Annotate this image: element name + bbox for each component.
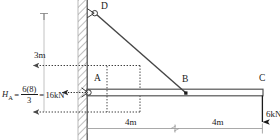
- equals-sign-1: =: [14, 90, 19, 100]
- dimension-line-spans: [87, 124, 262, 134]
- fraction-denominator: 3: [26, 96, 33, 105]
- diagram-canvas: [0, 0, 280, 140]
- pin-joint-D: [87, 9, 97, 18]
- load-label-6kN: 6kN: [266, 110, 280, 119]
- node-marker-B: [184, 91, 187, 94]
- fraction-numerator: 6(8): [21, 85, 38, 94]
- dimension-label-3m: 3m: [34, 51, 46, 60]
- reaction-force-formula: HA = 6(8) 3 = 16kN: [2, 85, 65, 105]
- strut-member-DB: [97, 15, 187, 94]
- point-label-A: A: [94, 74, 101, 84]
- point-label-B: B: [182, 75, 188, 85]
- point-label-D: D: [101, 2, 108, 12]
- dimension-label-AB-4m: 4m: [125, 118, 137, 127]
- structural-diagram: HA = 6(8) 3 = 16kN D A B C 3m 4m 4m 6kN: [0, 0, 280, 140]
- reaction-symbol: HA: [2, 89, 13, 101]
- dimension-label-BC-4m: 4m: [212, 118, 224, 127]
- wall-support: [78, 0, 87, 140]
- equals-sign-2: =: [39, 90, 44, 100]
- beam-member-AC: [87, 89, 263, 96]
- reaction-result: 16kN: [46, 90, 65, 100]
- point-label-C: C: [259, 74, 265, 84]
- reaction-fraction: 6(8) 3: [21, 85, 38, 105]
